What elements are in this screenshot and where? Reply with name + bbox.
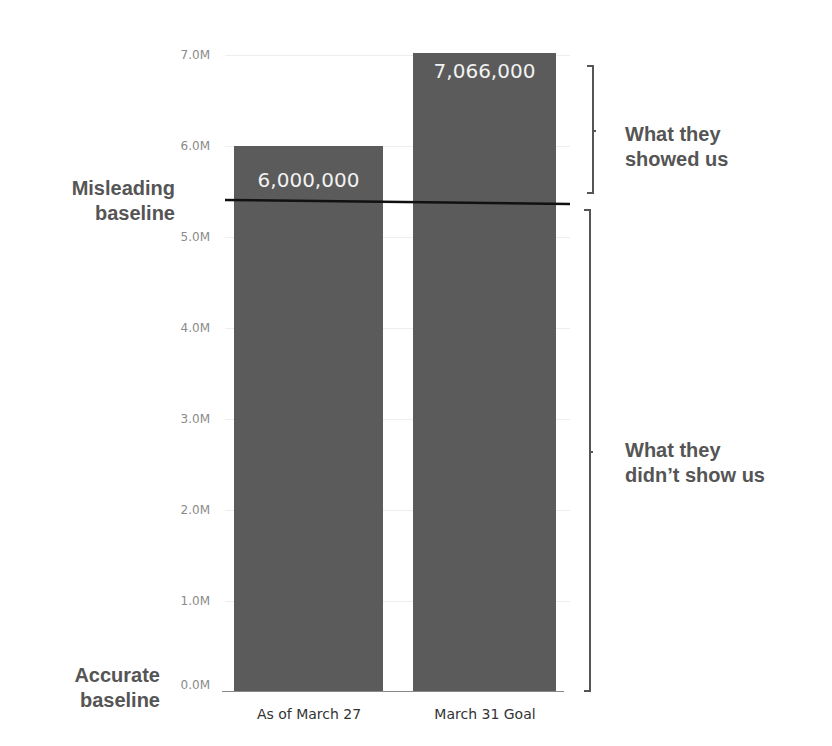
annotation-line: baseline	[20, 688, 160, 713]
shown-annotation: What they showed us	[625, 122, 728, 172]
annotation-line: baseline	[20, 201, 175, 226]
misleading-baseline-line	[0, 0, 832, 746]
hidden-annotation: What they didn’t show us	[625, 438, 765, 488]
shown-bracket	[587, 65, 594, 194]
accurate-baseline-label: Accurate baseline	[20, 663, 160, 713]
misleading-baseline-label: Misleading baseline	[20, 176, 175, 226]
hidden-bracket	[584, 209, 591, 692]
annotation-line: What they	[625, 438, 765, 463]
annotation-line: didn’t show us	[625, 463, 765, 488]
annotation-line: showed us	[625, 147, 728, 172]
annotation-line: What they	[625, 122, 728, 147]
annotation-line: Misleading	[20, 176, 175, 201]
annotation-line: Accurate	[20, 663, 160, 688]
